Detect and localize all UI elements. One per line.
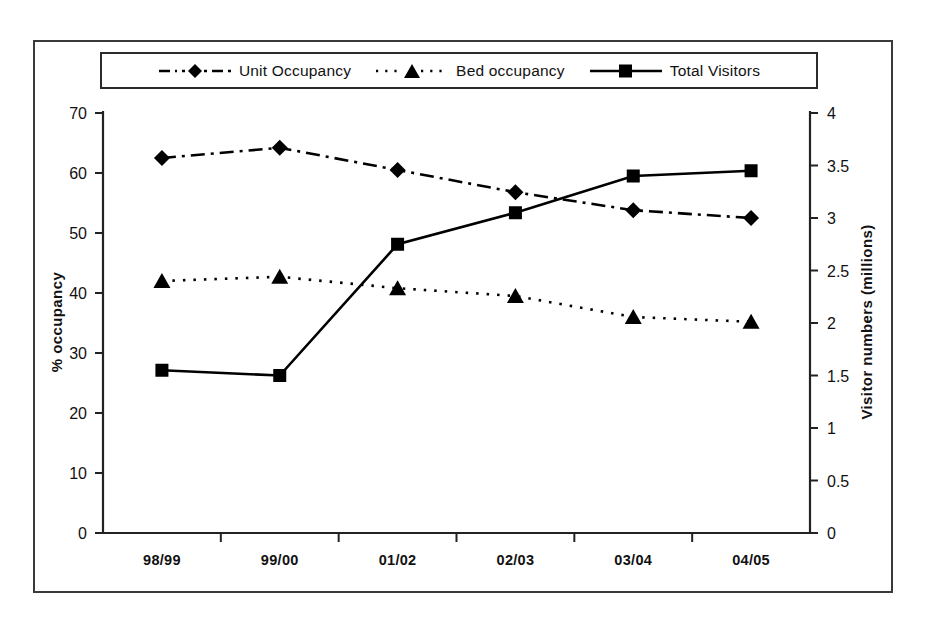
marker-diamond (743, 210, 759, 226)
right-tick-label: 2 (827, 315, 836, 332)
marker-square (627, 170, 640, 183)
left-tick-label: 70 (69, 105, 87, 122)
left-tick-label: 30 (69, 345, 87, 362)
marker-triangle (743, 314, 760, 329)
series-line (162, 277, 751, 322)
left-tick-label: 60 (69, 165, 87, 182)
chart-screenshot: Unit Occupancy Bed occupancy Total Visit… (0, 0, 925, 624)
marker-square (391, 238, 404, 251)
right-tick-label: 3.5 (827, 158, 849, 175)
marker-diamond (390, 162, 406, 178)
left-tick-label: 10 (69, 465, 87, 482)
right-tick-label: 1.5 (827, 368, 849, 385)
left-tick-label: 40 (69, 285, 87, 302)
x-category-label: 01/02 (379, 552, 417, 568)
marker-square (273, 369, 286, 382)
marker-square (509, 206, 522, 219)
x-category-label: 04/05 (732, 552, 770, 568)
marker-diamond (507, 184, 523, 200)
marker-triangle (153, 273, 170, 288)
right-axis-title: Visitor numbers (millions) (858, 224, 875, 419)
series-line (162, 171, 751, 376)
right-tick-label: 4 (827, 105, 836, 122)
series-line (162, 148, 751, 218)
left-axis-title: % occupancy (48, 272, 65, 373)
x-category-label: 99/00 (261, 552, 299, 568)
left-tick-label: 0 (78, 525, 87, 542)
right-tick-label: 0 (827, 525, 836, 542)
marker-square (745, 164, 758, 177)
chart-plot: 01020304050607000.511.522.533.5498/9999/… (0, 0, 925, 624)
series-total-visitors (155, 164, 757, 382)
marker-triangle (271, 269, 288, 284)
right-tick-label: 3 (827, 210, 836, 227)
marker-square (155, 364, 168, 377)
x-category-label: 02/03 (497, 552, 535, 568)
right-tick-label: 0.5 (827, 473, 849, 490)
right-tick-label: 1 (827, 420, 836, 437)
marker-triangle (625, 309, 642, 324)
marker-diamond (272, 140, 288, 156)
x-category-label: 03/04 (614, 552, 652, 568)
series-bed-occupancy (153, 269, 759, 329)
left-tick-label: 20 (69, 405, 87, 422)
series-unit-occupancy (154, 140, 759, 226)
x-category-label: 98/99 (143, 552, 181, 568)
marker-diamond (154, 150, 170, 166)
left-tick-label: 50 (69, 225, 87, 242)
marker-diamond (625, 202, 641, 218)
right-tick-label: 2.5 (827, 263, 849, 280)
series-layer (153, 140, 759, 382)
axes-layer (95, 111, 818, 542)
